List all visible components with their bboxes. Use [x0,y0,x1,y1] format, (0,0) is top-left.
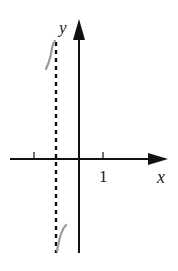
graph-canvas: y x 1 [0,0,178,271]
tick-label-one: 1 [99,167,108,186]
y-axis-arrow-icon [73,19,85,40]
curve-branch-lower [57,225,66,251]
x-axis-arrow-icon [148,153,168,165]
y-axis-label: y [57,18,67,37]
curve-branch-upper [46,41,55,69]
x-axis-label: x [156,167,165,187]
